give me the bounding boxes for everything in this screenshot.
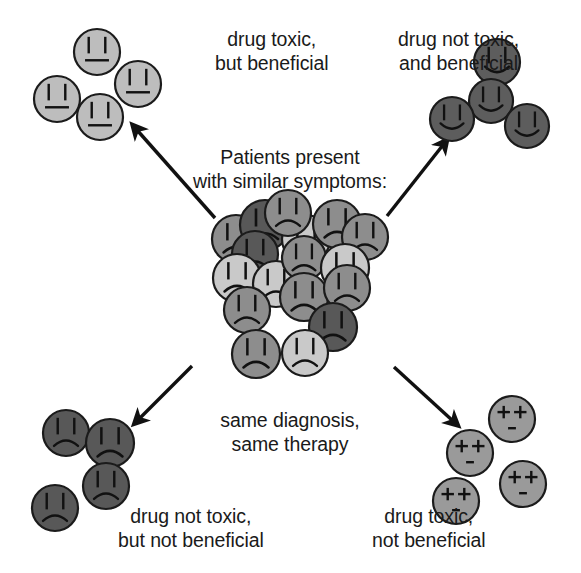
patient-face-top-right-2 — [430, 97, 474, 141]
diagram-canvas: Patients present with similar symptoms: … — [0, 0, 581, 573]
patient-face-center-12 — [224, 287, 270, 333]
diagram-graphics-layer — [0, 0, 581, 573]
patient-face-bottom-left-2 — [83, 463, 129, 509]
patient-face-center-14 — [232, 330, 280, 378]
center-heading: Patients present with similar symptoms: — [0, 146, 580, 194]
patient-face-top-left-3 — [77, 94, 123, 140]
patient-face-bottom-left-3 — [32, 485, 78, 531]
patient-face-bottom-right-2 — [500, 461, 546, 507]
patient-face-center-15 — [282, 330, 328, 376]
quadrant-label-top-right: drug not toxic, and beneficial — [398, 28, 519, 76]
quadrant-label-top-left: drug toxic, but beneficial — [215, 28, 329, 76]
patient-face-top-left-0 — [74, 29, 120, 75]
patient-face-top-left-2 — [34, 76, 80, 122]
quadrant-label-bottom-right: drug toxic, not beneficial — [372, 505, 486, 553]
patient-face-top-left-1 — [115, 61, 161, 107]
center-footer: same diagnosis, same therapy — [0, 409, 580, 457]
quadrant-label-bottom-left: drug not toxic, but not beneficial — [118, 505, 264, 553]
patient-face-center-16 — [265, 190, 311, 236]
patient-face-top-right-3 — [505, 104, 549, 148]
